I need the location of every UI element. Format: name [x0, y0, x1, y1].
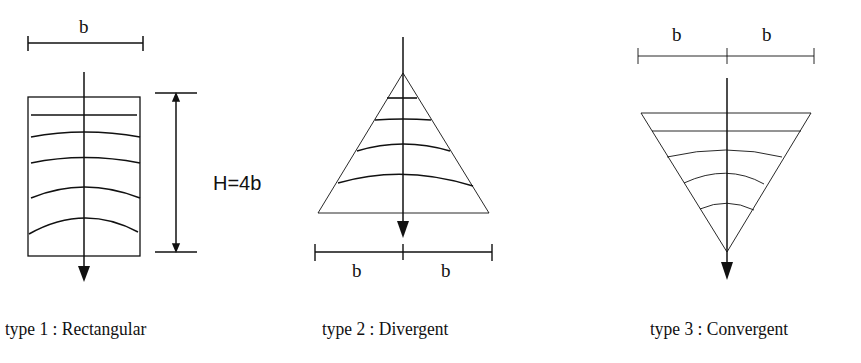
type3-top-label-left: b — [672, 24, 682, 46]
type2-caption: type 2 : Divergent — [322, 318, 448, 340]
type2-base-label-left: b — [352, 260, 362, 282]
type1-width-dimension — [28, 36, 143, 51]
type1-caption: type 1 : Rectangular — [5, 318, 146, 340]
type3-top-dimension — [638, 48, 814, 64]
type3-flow-arrowhead — [721, 262, 733, 280]
type2-flow-curves — [338, 98, 473, 186]
type1-height-label: H=4b — [213, 172, 261, 195]
type1-height-dimension — [155, 93, 197, 252]
type1-flow-arrowhead — [78, 266, 90, 282]
type1-width-label: b — [79, 16, 89, 38]
type2-base-label-right: b — [441, 260, 451, 282]
diagram-canvas — [0, 0, 861, 363]
type2-flow-arrowhead — [397, 221, 409, 238]
type2-base-dimension — [315, 244, 492, 261]
type1-rectangular-diagram — [28, 36, 197, 282]
type3-caption: type 3 : Convergent — [650, 318, 788, 340]
type2-divergent-diagram — [315, 37, 492, 261]
type3-triangle — [641, 113, 811, 252]
type3-top-label-right: b — [762, 24, 772, 46]
type3-convergent-diagram — [638, 48, 814, 280]
